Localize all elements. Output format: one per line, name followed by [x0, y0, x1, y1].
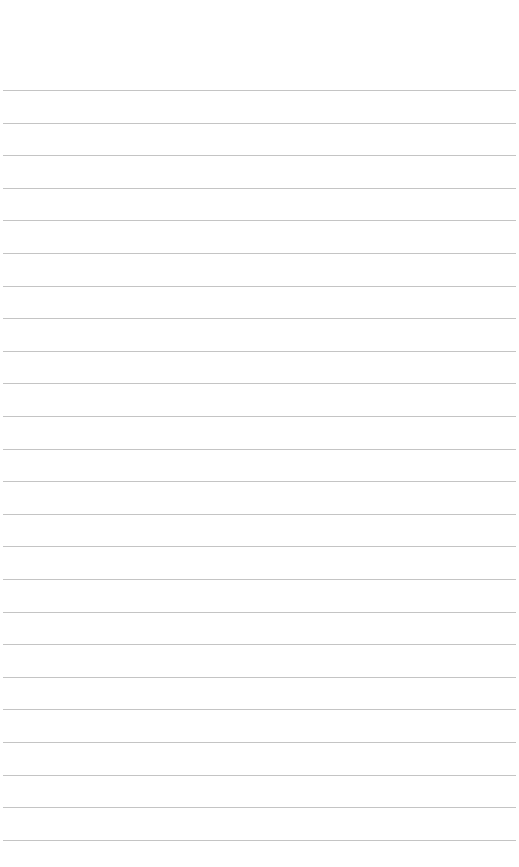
- lined-paper-page: [0, 0, 519, 867]
- ruled-line: [3, 188, 516, 189]
- ruled-line: [3, 318, 516, 319]
- ruled-line: [3, 90, 516, 91]
- ruled-line: [3, 742, 516, 743]
- ruled-line: [3, 514, 516, 515]
- ruled-line: [3, 383, 516, 384]
- ruled-line: [3, 775, 516, 776]
- ruled-line: [3, 123, 516, 124]
- ruled-line: [3, 155, 516, 156]
- ruled-line: [3, 351, 516, 352]
- ruled-line: [3, 416, 516, 417]
- ruled-line: [3, 644, 516, 645]
- ruled-line: [3, 481, 516, 482]
- ruled-line: [3, 612, 516, 613]
- ruled-line: [3, 807, 516, 808]
- ruled-line: [3, 546, 516, 547]
- ruled-line: [3, 220, 516, 221]
- ruled-line: [3, 286, 516, 287]
- ruled-line: [3, 579, 516, 580]
- ruled-line: [3, 677, 516, 678]
- ruled-line: [3, 253, 516, 254]
- ruled-line: [3, 449, 516, 450]
- ruled-line: [3, 709, 516, 710]
- ruled-line: [3, 840, 516, 841]
